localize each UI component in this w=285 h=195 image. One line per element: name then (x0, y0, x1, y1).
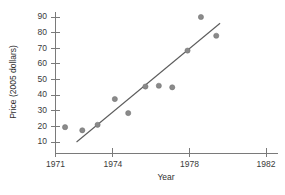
y-axis-tick-label: 50 (38, 74, 48, 84)
data-point-marker (156, 83, 161, 88)
y-axis-tick-label: 80 (38, 27, 48, 37)
y-axis-tick-labels: 102030405060708090 (38, 11, 48, 146)
data-point-marker (185, 48, 190, 53)
data-point-marker (112, 96, 117, 101)
x-axis-tick-labels: 1971197419781982 (46, 159, 276, 169)
data-point-marker (214, 33, 219, 38)
y-axis: 102030405060708090 Price (2005 dollars) (8, 11, 60, 150)
scatter-plot-figure: 102030405060708090 Price (2005 dollars) … (0, 0, 285, 195)
y-axis-tick-label: 40 (38, 89, 48, 99)
y-axis-tick-label: 60 (38, 58, 48, 68)
y-axis-tick-label: 70 (38, 43, 48, 53)
plot-canvas: 102030405060708090 Price (2005 dollars) … (0, 0, 285, 195)
y-axis-tick-label: 20 (38, 121, 48, 131)
x-axis-tick-label: 1978 (180, 159, 199, 169)
x-axis-tick-label: 1971 (46, 159, 65, 169)
x-axis-tick-label: 1974 (103, 159, 122, 169)
y-axis-tick-label: 30 (38, 105, 48, 115)
y-axis-title: Price (2005 dollars) (8, 45, 18, 119)
data-point-marker (62, 125, 67, 130)
data-point-marker (198, 14, 203, 19)
data-point-marker (95, 122, 100, 127)
x-axis: 1971197419781982 Year (46, 148, 278, 182)
y-axis-tick-label: 10 (38, 136, 48, 146)
x-axis-title: Year (157, 172, 174, 182)
data-point-marker (143, 84, 148, 89)
x-axis-tick-label: 1982 (257, 159, 276, 169)
data-point-marker (80, 128, 85, 133)
data-points (62, 14, 218, 132)
data-point-marker (126, 110, 131, 115)
data-point-marker (170, 85, 175, 90)
y-axis-tick-label: 90 (38, 11, 48, 21)
